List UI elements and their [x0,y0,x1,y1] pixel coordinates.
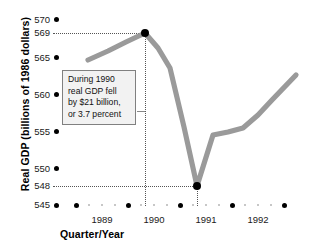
y-axis-dot-550 [54,166,59,171]
x-axis-title: Quarter/Year [60,228,124,240]
x-axis-dot-minor-2 [101,204,103,206]
callout-line-4: or 3.7 percent [68,109,131,121]
y-axis-dot-560 [54,92,59,97]
y-axis-dot-555 [54,129,59,134]
x-axis-dot-minor-4 [140,204,142,206]
x-axis-dot-minor-10 [244,204,246,206]
x-axis-dot-major-2 [126,203,131,208]
guide-line-548 [53,186,197,187]
gdp-line-chart: Real GDP (billions of 1986 dollars) 570 … [0,0,317,248]
callout-line-3: by $21 billion, [68,97,131,109]
peak-marker-569 [141,29,149,37]
x-tick-1992: 1992 [238,214,278,225]
callout-leader-line [137,111,145,112]
x-axis-dot-minor-9 [218,204,220,206]
x-tick-1991: 1991 [186,214,226,225]
callout-line-2: real GDP fell [68,86,131,98]
x-axis-dot-major-4 [230,203,235,208]
x-axis-dot-major-1 [74,203,79,208]
callout-line-1: During 1990 [68,74,131,86]
x-axis-dot-major-5 [282,203,287,208]
x-axis-dot-major-3 [178,203,183,208]
x-axis-dot-minor-3 [114,204,116,206]
x-axis-dot-minor-6 [166,204,168,206]
recession-callout: During 1990 real GDP fell by $21 billion… [62,70,136,125]
plot-area: During 1990 real GDP fell by $21 billion… [0,0,317,248]
guide-line-peak-vertical [145,33,146,206]
y-axis-dot-545-origin [54,203,59,208]
x-tick-1989: 1989 [82,214,122,225]
gdp-series-line [0,0,317,248]
y-axis-dot-565 [54,55,59,60]
x-axis-dot-minor-1 [88,204,90,206]
x-axis-dot-minor-7 [192,204,194,206]
x-tick-1990: 1990 [134,214,174,225]
x-axis-dot-minor-5 [153,204,155,206]
y-axis-dot-570 [54,17,59,22]
x-axis-dot-minor-12 [270,204,272,206]
x-axis-dot-minor-11 [257,204,259,206]
guide-line-569 [53,33,145,34]
trough-marker-548 [193,182,201,190]
x-axis-dot-minor-8 [205,204,207,206]
